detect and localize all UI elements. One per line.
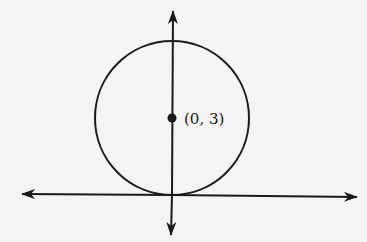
y-axis-up (172, 11, 173, 195)
center-label: (0, 3) (184, 110, 224, 128)
diagram-canvas: (0, 3) (0, 0, 367, 242)
diagram-svg: (0, 3) (0, 0, 367, 242)
x-axis-right (172, 195, 357, 197)
x-axis (22, 194, 172, 195)
y-axis-down (171, 195, 172, 235)
center-point (168, 114, 177, 123)
